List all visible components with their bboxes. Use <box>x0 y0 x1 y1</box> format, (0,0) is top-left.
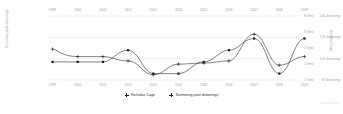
y-tick-right-label: 6 films <box>302 30 314 34</box>
x-tick-top-label: 2000 <box>74 8 81 12</box>
x-tick-top-label: 2004 <box>175 8 182 12</box>
y-tick-right-label: 2 films <box>302 62 314 66</box>
y-axis-right-title: Nicholas Cage <box>329 30 333 51</box>
x-tick-top-label: 2007 <box>250 8 257 12</box>
x-tick-bottom-label: 2004 <box>175 83 182 87</box>
x-tick-bottom-label: 2008 <box>276 83 283 87</box>
x-tick-bottom-label: 2007 <box>250 83 257 87</box>
x-tick-bottom-label: 2009 <box>301 83 308 87</box>
x-tick-top-label: 2006 <box>225 8 232 12</box>
y-axis-left-title: Swimming pool drownings <box>5 10 9 48</box>
legend-label: Nicholas Cage <box>131 93 155 97</box>
y-tick-right-label: 4 films <box>302 46 314 50</box>
x-tick-top-label: 2009 <box>301 8 308 12</box>
spurious-correlation-chart: 1999 2000 2001 2002 2003 2004 2005 2006 … <box>0 0 343 114</box>
watermark: tylervigen.com <box>320 101 339 105</box>
y-tick-left-label: 100 drownings <box>295 57 343 61</box>
chart-legend: Nicholas Cage Swimming pool drownings <box>0 93 343 97</box>
x-tick-top-label: 2001 <box>99 8 106 12</box>
x-tick-bottom-label: 2005 <box>200 83 207 87</box>
y-tick-right-label: 8 films <box>302 14 314 18</box>
y-tick-right-label: 0 films <box>302 78 314 82</box>
legend-label: Swimming pool drownings <box>176 93 219 97</box>
x-tick-bottom-label: 2003 <box>150 83 157 87</box>
x-tick-bottom-label: 2000 <box>74 83 81 87</box>
plus-marker-icon <box>169 93 173 97</box>
x-tick-top-label: 2005 <box>200 8 207 12</box>
legend-item-nicholas-cage[interactable]: Nicholas Cage <box>125 93 156 97</box>
plus-marker-icon <box>125 93 129 97</box>
x-tick-bottom-label: 2001 <box>99 83 106 87</box>
x-tick-top-label: 1999 <box>49 8 56 12</box>
x-tick-bottom-label: 1999 <box>49 83 56 87</box>
x-tick-top-label: 2002 <box>124 8 131 12</box>
x-tick-top-label: 2003 <box>150 8 157 12</box>
x-tick-bottom-label: 2002 <box>124 83 131 87</box>
x-tick-bottom-label: 2006 <box>225 83 232 87</box>
y-tick-left-label: 120 drownings <box>295 35 343 39</box>
plot-area <box>48 16 300 80</box>
x-tick-top-label: 2008 <box>276 8 283 12</box>
legend-item-swimming-pool-drownings[interactable]: Swimming pool drownings <box>169 93 218 97</box>
